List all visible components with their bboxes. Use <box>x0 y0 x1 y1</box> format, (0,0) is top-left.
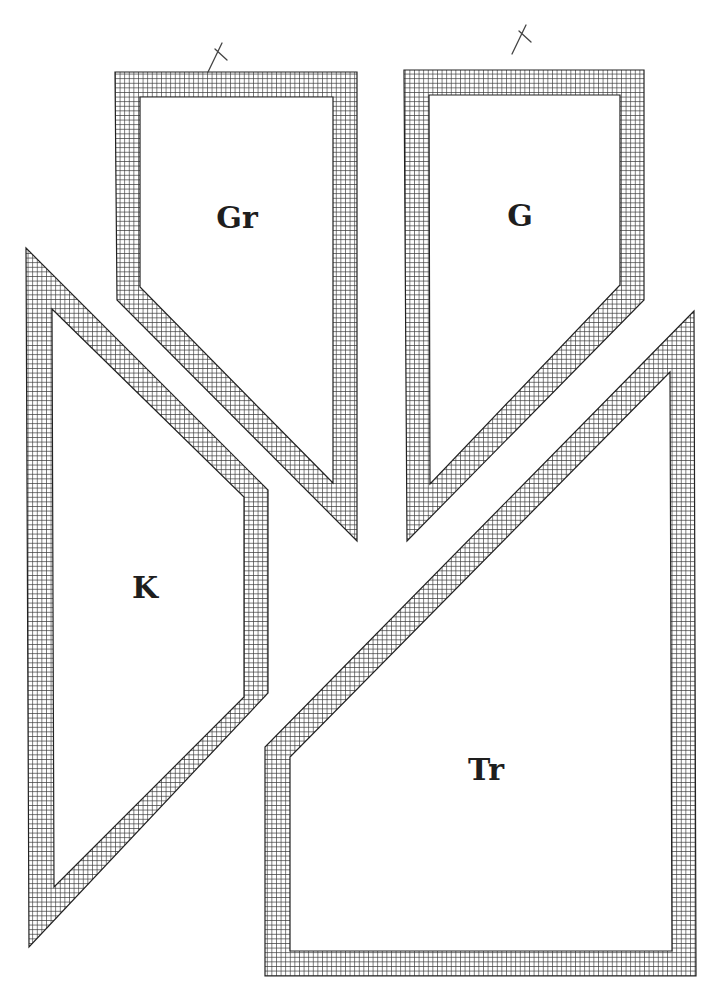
piece-tr-label: Tr <box>468 752 505 787</box>
piece-tr: Tr <box>265 311 696 976</box>
piece-g-border <box>404 70 644 541</box>
piece-tr-border <box>265 311 696 976</box>
template-canvas: Gr G K Tr <box>0 0 724 999</box>
piece-g: G <box>404 25 644 541</box>
piece-gr-label: Gr <box>216 200 259 235</box>
piece-k: K <box>26 248 268 947</box>
cut-mark-icon <box>208 43 227 72</box>
cut-mark-icon <box>512 25 531 54</box>
piece-k-label: K <box>132 570 159 605</box>
piece-g-label: G <box>507 198 533 233</box>
